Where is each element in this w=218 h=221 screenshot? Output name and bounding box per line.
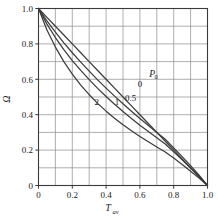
y-axis-title: Ω [1,95,12,102]
y-tick-label: 1.0 [22,4,34,14]
y-tick-label: 0.4 [22,110,34,120]
x-tick-label: 0.8 [168,190,180,200]
svg-text:0: 0 [154,73,157,80]
y-tick-label: 0.2 [22,145,33,155]
curve-label-0: 0 [138,79,143,89]
curve-label-1: 1 [115,97,120,107]
curve-label-2: 2 [95,97,100,107]
chart-figure: 00.20.40.60.81.0 00.20.40.60.81.0 00.512… [0,0,218,221]
x-tick-label: 0 [36,190,41,200]
y-tick-label: 0.6 [22,75,34,85]
x-tick-label: 0.2 [67,190,78,200]
svg-text:av: av [113,208,119,215]
x-tick-label: 0.4 [100,190,112,200]
svg-text:Ω: Ω [1,95,12,102]
omega-vs-tav-line-chart: 00.20.40.60.81.0 00.20.40.60.81.0 00.512… [0,0,218,221]
curve-label-0-5: 0.5 [125,93,137,103]
x-tick-label: 0.6 [134,190,146,200]
x-tick-label: 1.0 [202,190,214,200]
y-tick-label: 0 [29,181,34,191]
y-tick-label: 0.8 [22,39,34,49]
